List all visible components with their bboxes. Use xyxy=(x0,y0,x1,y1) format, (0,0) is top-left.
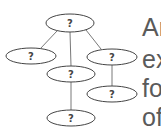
node-label: ? xyxy=(68,69,74,80)
tree-node-root: ? xyxy=(46,14,94,32)
node-label: ? xyxy=(28,51,34,62)
edge-root-right xyxy=(86,30,101,49)
side-text-line: Ar xyxy=(142,12,161,42)
tree-node-left: ? xyxy=(6,48,56,64)
side-text-line: ex xyxy=(142,44,161,74)
tree-node-middle: ? xyxy=(47,66,95,82)
tree-svg: ? ? ? ? ? ? xyxy=(0,0,161,133)
node-label: ? xyxy=(109,52,115,63)
side-text-line: fo xyxy=(142,73,161,103)
tree-node-right-child: ? xyxy=(87,86,137,102)
node-label: ? xyxy=(109,89,115,100)
tree-node-middle-child: ? xyxy=(47,110,95,126)
edge-root-middle xyxy=(70,32,71,66)
node-label: ? xyxy=(67,18,73,29)
node-label: ? xyxy=(68,113,74,124)
edge-root-left xyxy=(40,31,57,49)
tree-diagram: ? ? ? ? ? ? xyxy=(0,0,161,133)
side-text-line: of xyxy=(142,102,161,132)
tree-node-right: ? xyxy=(87,49,137,65)
